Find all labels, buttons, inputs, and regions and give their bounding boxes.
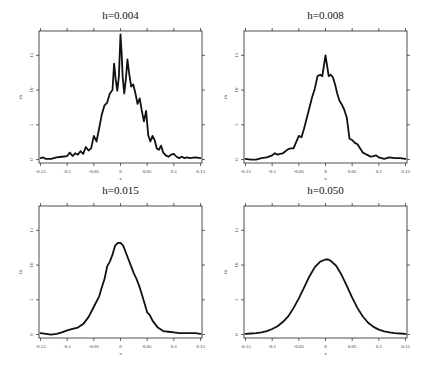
panel-plot-1: -0.15-0.1-0.0500.050.10.15051015xfh — [223, 28, 410, 181]
y-tick-label: 5 — [234, 298, 239, 301]
panel-plot-2: -0.15-0.1-0.0500.050.10.15051015xfh — [18, 203, 205, 356]
x-axis-label: x — [119, 176, 122, 181]
x-tick-label: -0.05 — [89, 344, 100, 349]
plot-canvas: -0.15-0.1-0.0500.050.10.15051015xfh-0.15… — [0, 0, 429, 370]
x-tick-label: 0 — [119, 344, 122, 349]
y-tick-label: 0 — [29, 333, 34, 336]
x-tick-label: 0.1 — [376, 169, 383, 174]
x-tick-label: 0.1 — [171, 344, 178, 349]
x-tick-label: 0 — [324, 344, 327, 349]
y-tick-label: 15 — [234, 52, 239, 58]
y-tick-label: 0 — [234, 333, 239, 336]
panel-plot-3: -0.15-0.1-0.0500.050.10.15051015xfh — [223, 203, 410, 356]
y-axis-label: fh — [223, 94, 228, 99]
x-tick-label: 0 — [119, 169, 122, 174]
x-axis-label: x — [324, 176, 327, 181]
y-tick-label: 15 — [234, 227, 239, 233]
x-tick-label: 0.05 — [143, 344, 152, 349]
y-axis-label: fh — [223, 269, 228, 274]
plot-frame — [39, 206, 202, 338]
density-curve — [246, 55, 406, 159]
density-curve — [41, 34, 201, 158]
x-tick-label: -0.15 — [35, 344, 46, 349]
x-tick-label: -0.15 — [240, 344, 251, 349]
y-tick-label: 10 — [234, 262, 239, 268]
x-tick-label: -0.1 — [63, 344, 71, 349]
y-tick-label: 5 — [234, 123, 239, 126]
y-axis-label: fh — [18, 94, 23, 99]
x-tick-label: 0.05 — [348, 169, 357, 174]
y-tick-label: 10 — [29, 87, 34, 93]
x-tick-label: -0.15 — [35, 169, 46, 174]
x-tick-label: 0.15 — [196, 344, 205, 349]
x-tick-label: 0.1 — [171, 169, 178, 174]
density-curve — [246, 259, 406, 333]
x-tick-label: 0.1 — [376, 344, 383, 349]
x-axis-label: x — [324, 351, 327, 356]
x-tick-label: -0.1 — [268, 344, 276, 349]
density-curve — [41, 243, 201, 335]
x-tick-label: -0.15 — [240, 169, 251, 174]
x-axis-label: x — [119, 351, 122, 356]
x-tick-label: -0.05 — [294, 344, 305, 349]
y-tick-label: 10 — [234, 87, 239, 93]
y-tick-label: 0 — [29, 158, 34, 161]
plot-frame — [244, 206, 407, 338]
y-tick-label: 15 — [29, 227, 34, 233]
x-tick-label: 0.15 — [196, 169, 205, 174]
x-tick-label: 0.15 — [401, 344, 410, 349]
y-axis-label: fh — [18, 269, 23, 274]
y-tick-label: 10 — [29, 262, 34, 268]
y-tick-label: 5 — [29, 298, 34, 301]
x-tick-label: -0.05 — [294, 169, 305, 174]
y-tick-label: 5 — [29, 123, 34, 126]
x-tick-label: -0.1 — [268, 169, 276, 174]
x-tick-label: -0.05 — [89, 169, 100, 174]
y-tick-label: 15 — [29, 52, 34, 58]
x-tick-label: -0.1 — [63, 169, 71, 174]
panel-plot-0: -0.15-0.1-0.0500.050.10.15051015xfh — [18, 28, 205, 181]
x-tick-label: 0.15 — [401, 169, 410, 174]
x-tick-label: 0.05 — [348, 344, 357, 349]
plot-frame — [244, 31, 407, 163]
y-tick-label: 0 — [234, 158, 239, 161]
x-tick-label: 0 — [324, 169, 327, 174]
x-tick-label: 0.05 — [143, 169, 152, 174]
